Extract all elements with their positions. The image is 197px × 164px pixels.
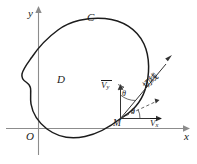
vy-label: Vy: [101, 81, 109, 91]
region-label-d: D: [57, 74, 65, 85]
vx-label: Vx: [150, 119, 158, 129]
x-axis-label: x: [184, 131, 189, 142]
curve-label-c: C: [87, 12, 94, 23]
theta-lower-label: θ: [131, 108, 135, 116]
y-axis: [35, 6, 41, 155]
closed-curve-c: [22, 18, 149, 137]
origin-label: O: [26, 131, 34, 142]
figure-canvas: y x O C D M Vx Vy θ θ 切线: [0, 0, 197, 164]
theta-upper-label: θ: [122, 90, 126, 98]
point-label-m: M: [113, 119, 121, 129]
vx-subscript: x: [156, 121, 159, 128]
vy-subscript: y: [107, 83, 110, 90]
y-axis-label: y: [28, 8, 33, 19]
vx-overbar: [150, 118, 161, 119]
angle-arc-theta-lower: [138, 110, 140, 119]
vy-overbar: [101, 80, 112, 81]
